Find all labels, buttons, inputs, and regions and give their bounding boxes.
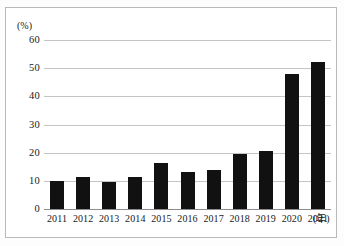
y-axis-unit-label: (%): [17, 21, 32, 31]
bar-2018: [233, 154, 247, 209]
gridline-0: [44, 209, 331, 210]
bar-2014: [128, 177, 142, 209]
bar-2019: [259, 151, 273, 209]
y-tick-label: 40: [10, 91, 40, 102]
bar-2013: [102, 182, 116, 209]
plot-area: [44, 40, 331, 209]
y-tick-label: 10: [10, 176, 40, 187]
bar-2021: [311, 62, 325, 209]
bar-2011: [50, 181, 64, 209]
bar-2015: [154, 163, 168, 209]
bar-2020: [285, 74, 299, 209]
y-tick-label: 30: [10, 120, 40, 131]
bar-series: [44, 40, 331, 209]
y-tick-label: 20: [10, 148, 40, 159]
y-tick-label: 50: [10, 63, 40, 74]
x-axis-tick-labels: 2011201220132014201520162017201820192020…: [44, 212, 331, 230]
y-axis-tick-labels: 0102030405060: [8, 40, 40, 209]
y-tick-label: 0: [10, 204, 40, 215]
bar-2017: [207, 170, 221, 209]
x-axis-unit-label: (年): [313, 212, 330, 225]
bar-2012: [76, 177, 90, 209]
bar-2016: [181, 172, 195, 209]
y-tick-label: 60: [10, 35, 40, 46]
bar-chart-figure: (%) 0102030405060 2011201220132014201520…: [0, 0, 344, 246]
